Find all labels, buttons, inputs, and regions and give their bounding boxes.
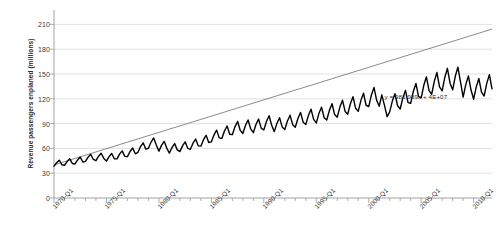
y-axis-tick-label: 0 bbox=[24, 195, 50, 202]
y-axis-title: Revenue passengers enplaned (millions) bbox=[27, 16, 34, 192]
y-axis-tick-label: 60 bbox=[24, 145, 50, 152]
data-series-line bbox=[54, 67, 492, 166]
chart-container: Revenue passengers enplaned (millions) 0… bbox=[0, 0, 500, 247]
trendline-equation: y = 983,939x + 4E+07 bbox=[384, 93, 447, 100]
y-axis-tick-label: 210 bbox=[24, 21, 50, 28]
y-axis-tick-label: 120 bbox=[24, 95, 50, 102]
y-axis-tick-label: 30 bbox=[24, 170, 50, 177]
axis-tick-marks bbox=[50, 24, 484, 203]
y-axis-tick-label: 180 bbox=[24, 46, 50, 53]
axis-lines bbox=[54, 10, 492, 198]
y-axis-tick-label: 90 bbox=[24, 120, 50, 127]
chart-plot-area bbox=[0, 0, 500, 247]
y-axis-tick-label: 150 bbox=[24, 71, 50, 78]
